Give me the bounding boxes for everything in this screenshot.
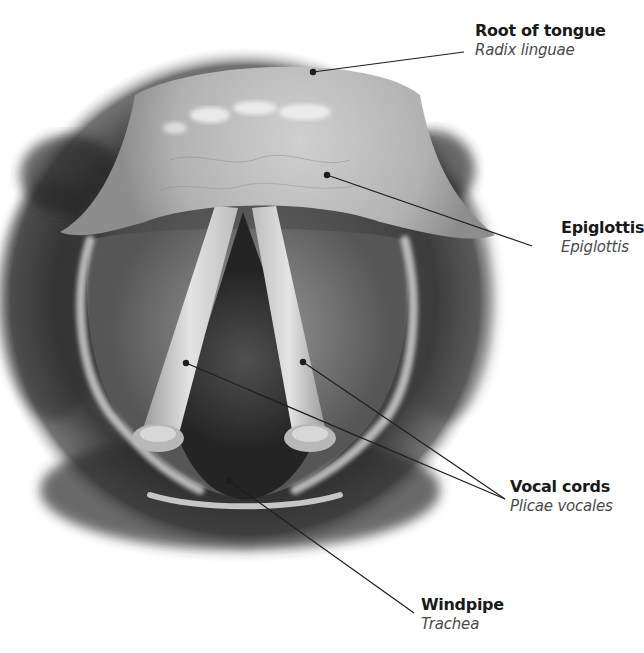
label-latin: Trachea — [421, 616, 504, 633]
label-epiglottis: Epiglottis Epiglottis — [561, 219, 644, 255]
label-root-of-tongue: Root of tongue Radix linguae — [475, 22, 606, 58]
label-windpipe: Windpipe Trachea — [421, 596, 504, 632]
label-latin: Radix linguae — [475, 42, 606, 59]
label-name: Epiglottis — [561, 219, 644, 237]
label-vocal-cords: Vocal cords Plicae vocales — [510, 478, 613, 514]
label-name: Windpipe — [421, 596, 504, 614]
label-latin: Plicae vocales — [510, 498, 613, 515]
label-name: Vocal cords — [510, 478, 613, 496]
label-name: Root of tongue — [475, 22, 606, 40]
label-latin: Epiglottis — [561, 239, 644, 256]
